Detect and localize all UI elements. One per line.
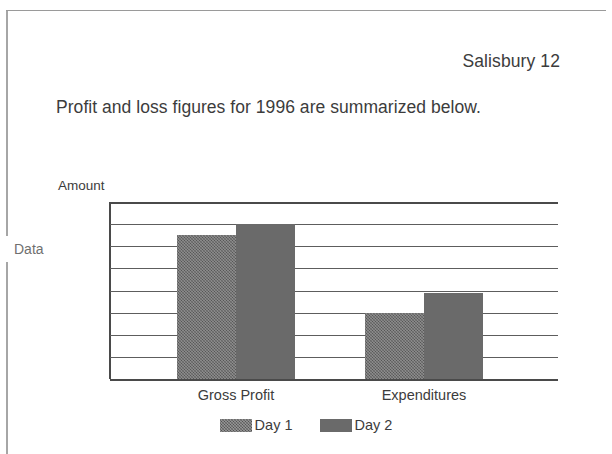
legend-label: Day 2 — [355, 417, 393, 433]
category-label: Gross Profit — [198, 387, 275, 403]
gridline — [110, 224, 558, 225]
legend-label: Day 1 — [255, 417, 293, 433]
legend-swatch-icon — [220, 419, 252, 432]
plot-area — [110, 202, 558, 379]
y-axis-title: Amount — [58, 178, 105, 193]
legend-item: Day 2 — [320, 417, 393, 433]
category-label: Expenditures — [382, 387, 467, 403]
chart-legend: Day 1Day 2 — [0, 417, 612, 433]
gridline — [110, 202, 558, 204]
legend-swatch-icon — [320, 419, 352, 432]
bar-gross-profit-day-2 — [236, 224, 295, 379]
data-side-label: Data — [14, 241, 44, 257]
bar-gross-profit-day-1 — [177, 235, 236, 379]
bar-expenditures-day-2 — [424, 293, 483, 379]
legend-item: Day 1 — [220, 417, 293, 433]
bar-expenditures-day-1 — [365, 313, 424, 379]
bar-chart: Amount Data 05001,0001,5002,0002,5003,00… — [0, 0, 612, 454]
gridline — [110, 379, 558, 381]
